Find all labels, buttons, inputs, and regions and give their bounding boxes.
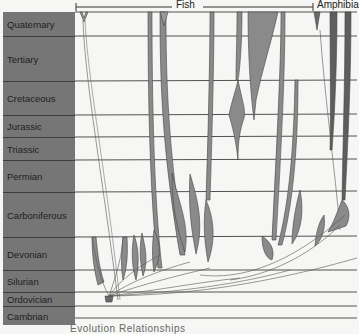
- period-cambrian: Cambrian: [3, 306, 75, 325]
- period-tertiary: Tertiary: [3, 36, 75, 81]
- figure-caption: Evolution Relationships: [70, 323, 185, 334]
- period-carboniferous: Carboniferous: [3, 192, 75, 237]
- period-silurian: Silurian: [3, 270, 75, 292]
- branching-curves: [92, 215, 357, 296]
- lineages: [80, 12, 351, 302]
- period-column: Quaternary Tertiary Cretaceous Jurassic …: [3, 12, 75, 325]
- period-triassic: Triassic: [3, 137, 75, 160]
- group-label-fish: Fish: [176, 0, 195, 10]
- period-permian: Permian: [3, 160, 75, 192]
- group-label-amphibia: Amphibia: [317, 0, 359, 10]
- period-ordovician: Ordovician: [3, 292, 75, 306]
- period-jurassic: Jurassic: [3, 115, 75, 137]
- period-devonian: Devonian: [3, 237, 75, 270]
- period-cretaceous: Cretaceous: [3, 81, 75, 115]
- period-quaternary: Quaternary: [3, 12, 75, 36]
